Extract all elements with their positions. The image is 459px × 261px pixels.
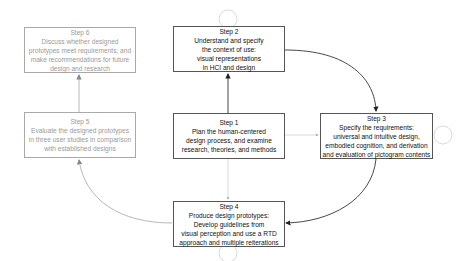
step-5-line-2: in three user studies in comparison bbox=[25, 135, 135, 144]
step-2-line-2: the context of use: bbox=[174, 45, 284, 54]
step-5-line-3: with established designs bbox=[25, 144, 135, 153]
step-1-title: Step 1 bbox=[174, 118, 284, 127]
step-3-line-4: and evaluation of pictogram contents bbox=[321, 150, 432, 159]
arrow-step2-to-step3 bbox=[285, 50, 376, 111]
step-5-line-1: Evaluate the designed prototypes bbox=[25, 126, 135, 135]
step-3-box: Step 3 Specify the requirements: univers… bbox=[320, 113, 433, 159]
step-6-line-4: design and research bbox=[25, 64, 135, 73]
step-4-line-4: approach and multiple reiterations bbox=[174, 238, 284, 247]
step-1-line-3: research, theories, and methods bbox=[174, 145, 284, 154]
arrow-step4-to-step5 bbox=[79, 160, 172, 223]
step-5-title: Step 5 bbox=[25, 117, 135, 126]
step-3-line-1: Specify the requirements: bbox=[321, 123, 432, 132]
step-3-line-3: embodied cognition, and derivation bbox=[321, 141, 432, 150]
step-4-title: Step 4 bbox=[174, 202, 284, 211]
step-1-line-1: Plan the human-centered bbox=[174, 127, 284, 136]
step-2-line-3: visual representations bbox=[174, 54, 284, 63]
step-2-box: Step 2 Understand and specify the contex… bbox=[173, 26, 285, 72]
step-2-title: Step 2 bbox=[174, 27, 284, 36]
step-2-line-4: in HCI and design bbox=[174, 63, 284, 72]
step-3-line-2: universal and intuitive design, bbox=[321, 132, 432, 141]
step-6-line-2: prototypes meet requirements, and bbox=[25, 46, 135, 55]
arrow-step3-to-step4 bbox=[286, 159, 376, 223]
step-4-line-1: Produce design prototypes: bbox=[174, 211, 284, 220]
step-4-box: Step 4 Produce design prototypes: Develo… bbox=[173, 201, 285, 247]
step-2-line-1: Understand and specify bbox=[174, 36, 284, 45]
step-1-line-2: design process, and examine bbox=[174, 136, 284, 145]
step-6-line-3: make recommendations for future bbox=[25, 55, 135, 64]
step-6-box: Step 6 Discuss whether designed prototyp… bbox=[24, 27, 136, 73]
step-3-title: Step 3 bbox=[321, 114, 432, 123]
step-6-line-1: Discuss whether designed bbox=[25, 37, 135, 46]
step-4-line-3: visual perception and use a RTD bbox=[174, 229, 284, 238]
step-5-box: Step 5 Evaluate the designed prototypes … bbox=[24, 112, 136, 158]
step-6-title: Step 6 bbox=[25, 28, 135, 37]
step-1-box: Step 1 Plan the human-centered design pr… bbox=[173, 113, 285, 159]
self-loop-step3 bbox=[434, 126, 452, 144]
step-4-line-2: Develop guidelines from bbox=[174, 220, 284, 229]
